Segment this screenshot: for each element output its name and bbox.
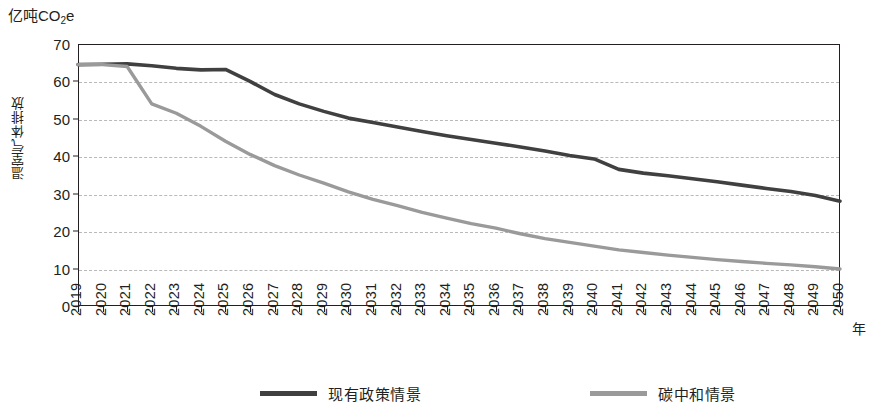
x-tick-label: 2020 [93, 283, 109, 316]
y-tick-label: 20 [53, 223, 70, 240]
x-tick-label: 2049 [805, 283, 821, 316]
legend-line-swatch [260, 391, 317, 396]
x-tick-label: 2041 [609, 283, 625, 316]
x-tick-label: 2036 [486, 283, 502, 316]
x-tick-label: 2042 [633, 283, 649, 316]
x-tick-label: 2027 [265, 283, 281, 316]
x-tick-label: 2046 [732, 283, 748, 316]
x-tick-label: 2033 [412, 283, 428, 316]
series-container [78, 44, 840, 306]
x-tick-label: 2047 [756, 283, 772, 316]
legend: 现有政策情景碳中和情景 [78, 383, 840, 407]
ghg-emissions-line-chart: 亿吨CO2e 温室气体排放 706050403020100 2019202020… [0, 0, 876, 407]
x-tick-label: 2023 [166, 283, 182, 316]
x-tick-label: 2024 [191, 283, 207, 316]
y-tick-label: 60 [53, 73, 70, 90]
y-tick-label: 70 [53, 36, 70, 53]
legend-label: 现有政策情景 [328, 383, 421, 404]
legend-item[interactable]: 碳中和情景 [590, 383, 736, 404]
x-tick-label: 2039 [560, 283, 576, 316]
x-tick-label: 2031 [363, 283, 379, 316]
x-tick-label: 2022 [142, 283, 158, 316]
x-tick-label: 2021 [117, 283, 133, 316]
x-tick-label: 2038 [535, 283, 551, 316]
x-tick-label: 2044 [683, 283, 699, 316]
x-tick-label: 2045 [707, 283, 723, 316]
series-line-carbon-neutral [78, 65, 840, 269]
x-tick-label: 2026 [240, 283, 256, 316]
series-line-current-policy [78, 64, 840, 201]
x-tick-label: 2025 [215, 283, 231, 316]
x-tick-label: 2037 [510, 283, 526, 316]
y-tick-label: 50 [53, 110, 70, 127]
x-tick-label: 2035 [461, 283, 477, 316]
x-axis-name: 年 [852, 318, 866, 338]
x-tick-label: 2029 [314, 283, 330, 316]
x-tick-label: 2019 [68, 283, 84, 316]
x-tick-label: 2043 [658, 283, 674, 316]
x-tick-label: 2050 [830, 283, 846, 316]
y-tick-label: 30 [53, 185, 70, 202]
x-tick-label: 2030 [338, 283, 354, 316]
legend-line-swatch [590, 391, 647, 396]
y-tick-label: 40 [53, 148, 70, 165]
x-tick-label: 2040 [584, 283, 600, 316]
legend-label: 碳中和情景 [658, 383, 736, 404]
x-tick-label: 2028 [289, 283, 305, 316]
y-tick-label: 10 [53, 260, 70, 277]
x-tick-label: 2032 [388, 283, 404, 316]
y-axis-ticks: 706050403020100 [0, 0, 78, 350]
x-tick-label: 2034 [437, 283, 453, 316]
x-tick-label: 2048 [781, 283, 797, 316]
legend-item[interactable]: 现有政策情景 [260, 383, 421, 404]
